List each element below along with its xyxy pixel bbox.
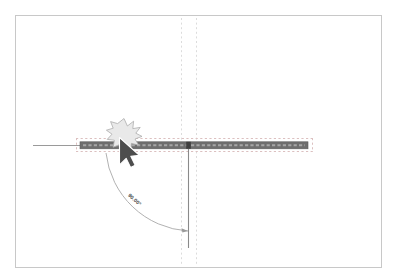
drawing-surface[interactable]	[0, 0, 398, 279]
node-marker-square[interactable]	[186, 142, 191, 149]
cad-drawing-canvas[interactable]: 90.00°	[0, 0, 398, 279]
drawing-sheet-border	[16, 16, 382, 268]
